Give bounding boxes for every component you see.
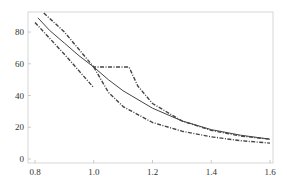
y-tick-label: 0	[20, 154, 25, 164]
series-group	[35, 13, 270, 143]
y-axis: 020406080	[15, 27, 31, 164]
x-tick-label: 1.0	[88, 167, 100, 177]
y-tick-label: 20	[15, 122, 25, 132]
x-tick-label: 0.8	[29, 167, 41, 177]
series-dash-dot-lower-left	[35, 23, 94, 88]
x-tick-label: 1.4	[206, 167, 218, 177]
x-tick-label: 1.6	[264, 167, 276, 177]
series-dash-dot-upper	[44, 13, 270, 139]
y-tick-label: 40	[15, 91, 25, 101]
y-tick-label: 60	[15, 59, 25, 69]
line-chart: 0.81.01.21.41.6 020406080	[0, 0, 287, 184]
x-axis: 0.81.01.21.41.6	[29, 160, 276, 177]
series-solid	[38, 18, 270, 139]
x-tick-label: 1.2	[147, 167, 158, 177]
y-tick-label: 80	[15, 27, 25, 37]
series-dash-dot-lower-right	[94, 67, 270, 143]
